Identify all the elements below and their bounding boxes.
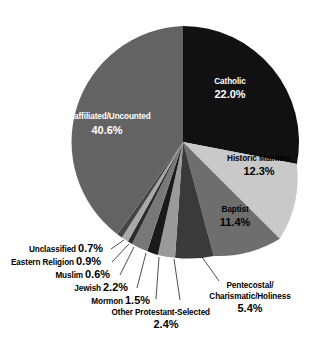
label-pentecostal-pct: 5.4% bbox=[237, 302, 262, 314]
label-muslim-pct: 0.6% bbox=[85, 268, 110, 280]
label-otherprot-name: Other Protestant-Selected bbox=[111, 308, 210, 317]
leader-jewish bbox=[137, 253, 146, 288]
leader-other-protestant bbox=[174, 259, 180, 300]
callout-label-other-protestant: Other Protestant-Selected 2.4% bbox=[111, 308, 210, 330]
inslice-label-baptist: Baptist 11.4% bbox=[220, 205, 251, 228]
label-otherprot-pct: 2.4% bbox=[153, 318, 178, 330]
pie-slices bbox=[72, 26, 299, 259]
leader-unclassified bbox=[111, 240, 124, 249]
label-pentecostal-line2: Charismatic/Holiness bbox=[209, 292, 291, 301]
label-eastern-pct: 0.9% bbox=[76, 255, 101, 267]
label-baptist-pct: 11.4% bbox=[220, 216, 251, 228]
label-eastern-name: Eastern Religion bbox=[11, 258, 74, 267]
callout-label-muslim: Muslim 0.6% bbox=[55, 268, 110, 280]
label-historic-pct: 12.3% bbox=[243, 165, 274, 177]
label-mormon-name: Mormon bbox=[91, 297, 123, 306]
pie-chart-svg: Catholic 22.0% Historic Mainline 12.3% B… bbox=[0, 0, 317, 348]
pie-chart-figure: Catholic 22.0% Historic Mainline 12.3% B… bbox=[0, 0, 317, 348]
leader-pentecostal bbox=[202, 257, 219, 281]
label-baptist-name: Baptist bbox=[221, 205, 248, 214]
label-catholic-pct: 22.0% bbox=[214, 88, 245, 100]
label-jewish-name: Jewish bbox=[74, 284, 101, 293]
label-historic-name: Historic Mainline bbox=[227, 154, 291, 163]
label-jewish-pct: 2.2% bbox=[103, 281, 128, 293]
label-unclassified-name: Unclassified bbox=[29, 245, 76, 254]
label-muslim-name: Muslim bbox=[55, 271, 83, 280]
callout-label-mormon: Mormon 1.5% bbox=[91, 294, 150, 306]
leader-mormon bbox=[156, 257, 159, 299]
label-mormon-pct: 1.5% bbox=[125, 294, 150, 306]
callout-label-unclassified: Unclassified 0.7% bbox=[29, 242, 103, 254]
label-unaffiliated-pct: 40.6% bbox=[91, 124, 122, 136]
callout-label-jewish: Jewish 2.2% bbox=[74, 281, 128, 293]
chart-title bbox=[0, 0, 317, 5]
label-unaffiliated-name: Unaffiliated/Uncounted bbox=[63, 112, 151, 121]
callout-label-pentecostal: Pentecostal/ Charismatic/Holiness 5.4% bbox=[209, 281, 291, 314]
callout-label-eastern-religion: Eastern Religion 0.9% bbox=[11, 255, 101, 267]
label-catholic-name: Catholic bbox=[214, 77, 246, 86]
label-pentecostal-line1: Pentecostal/ bbox=[226, 281, 274, 290]
label-unclassified-pct: 0.7% bbox=[78, 242, 103, 254]
inslice-label-catholic: Catholic 22.0% bbox=[214, 77, 246, 100]
